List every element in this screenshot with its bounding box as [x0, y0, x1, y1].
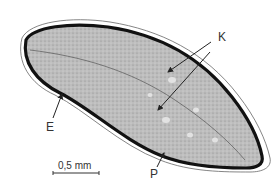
seed-diagram: K E P 0,5 mm: [0, 0, 280, 195]
label-p: P: [150, 168, 158, 180]
scale-bar-label: 0,5 mm: [58, 161, 91, 171]
scale-bar: [53, 171, 99, 175]
e-arrow: [53, 94, 62, 118]
label-k: K: [218, 31, 226, 43]
label-e: E: [46, 121, 54, 133]
seed-illustration: [0, 0, 280, 195]
